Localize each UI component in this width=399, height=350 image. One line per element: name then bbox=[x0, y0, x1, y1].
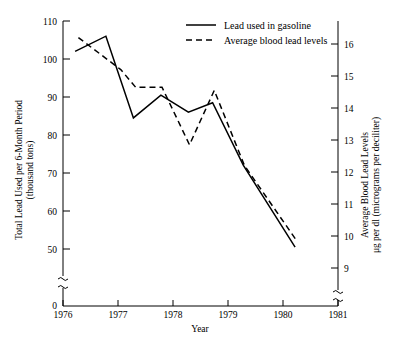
left-axis-group bbox=[58, 21, 68, 306]
left-axis-tick-labels: 5060708090100110 bbox=[43, 17, 58, 255]
legend-label-0: Lead used in gasoline bbox=[224, 20, 311, 31]
series-lead-used-in-gasoline bbox=[75, 36, 295, 247]
left-axis-title-line2: (thousand tons) bbox=[25, 141, 36, 200]
left-tick-label-60: 60 bbox=[48, 207, 58, 217]
right-tick-label-12: 12 bbox=[344, 168, 354, 178]
x-axis-title: Year bbox=[191, 324, 209, 334]
series-average-blood-lead-levels bbox=[78, 38, 296, 241]
x-axis-tick-labels: 197619771978197919801981 bbox=[54, 310, 348, 320]
x-tick-label-1978: 1978 bbox=[164, 310, 183, 320]
left-tick-label-70: 70 bbox=[48, 169, 58, 179]
left-axis-ticks bbox=[63, 21, 70, 249]
right-axis-title-line2: μg per dl (micrograms per deciliter) bbox=[371, 117, 382, 253]
chart-legend: Lead used in gasolineAverage blood lead … bbox=[186, 20, 327, 46]
right-tick-label-9: 9 bbox=[344, 264, 349, 274]
right-tick-label-13: 13 bbox=[344, 136, 354, 146]
right-tick-label-11: 11 bbox=[344, 200, 353, 210]
lead-levels-line-chart: 5060708090100110 0 Total Lead Used per 6… bbox=[0, 0, 399, 350]
right-tick-label-10: 10 bbox=[344, 232, 354, 242]
left-axis-title-line1: Total Lead Used per 6-Month Period bbox=[14, 100, 24, 240]
left-tick-label-50: 50 bbox=[48, 245, 58, 255]
x-axis-ticks bbox=[63, 300, 338, 306]
x-tick-label-1979: 1979 bbox=[219, 310, 238, 320]
right-axis-title-line1: Average Blood Lead Levels bbox=[360, 132, 370, 238]
right-tick-label-15: 15 bbox=[344, 72, 354, 82]
x-tick-label-1977: 1977 bbox=[109, 310, 128, 320]
right-axis-tick-labels: 910111213141516 bbox=[344, 40, 354, 274]
right-tick-label-16: 16 bbox=[344, 40, 354, 50]
right-tick-label-14: 14 bbox=[344, 104, 354, 114]
left-tick-label-90: 90 bbox=[48, 93, 58, 103]
left-tick-label-80: 80 bbox=[48, 131, 58, 141]
legend-label-1: Average blood lead levels bbox=[224, 35, 327, 46]
right-axis-group bbox=[333, 21, 343, 306]
x-tick-label-1976: 1976 bbox=[54, 310, 73, 320]
right-axis-break-icon bbox=[333, 291, 343, 302]
left-tick-label-100: 100 bbox=[43, 55, 58, 65]
right-axis-ticks bbox=[331, 44, 338, 268]
left-tick-label-110: 110 bbox=[43, 17, 57, 27]
x-tick-label-1981: 1981 bbox=[329, 310, 348, 320]
left-axis-break-icon bbox=[58, 278, 68, 289]
x-tick-label-1980: 1980 bbox=[274, 310, 293, 320]
chart-container: 5060708090100110 0 Total Lead Used per 6… bbox=[0, 0, 399, 350]
